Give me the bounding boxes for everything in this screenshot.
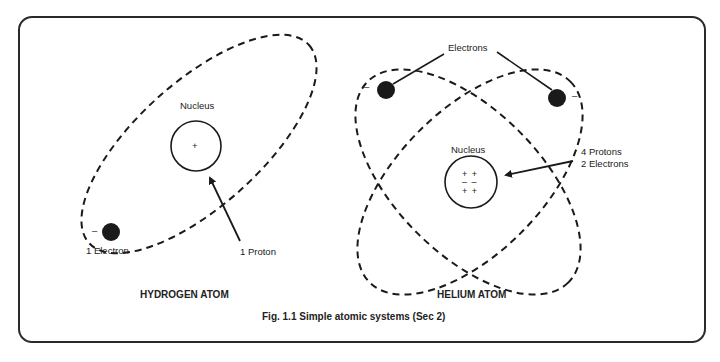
- helium-electron-charge-left: –: [364, 81, 369, 92]
- hydrogen-title: HYDROGEN ATOM: [140, 289, 229, 300]
- helium-title: HELIUM ATOM: [437, 289, 506, 300]
- atomic-systems-diagram: [0, 0, 720, 362]
- proton-arrow: [210, 178, 240, 241]
- helium-nucleus-charges-bottom: + +: [462, 186, 478, 197]
- figure-caption: Fig. 1.1 Simple atomic systems (Sec 2): [262, 311, 445, 322]
- helium-electron-right: [548, 89, 566, 107]
- helium-electrons-label: Electrons: [448, 42, 488, 53]
- helium-electron-left: [377, 81, 395, 99]
- hydrogen-electron-label: 1 Electron: [86, 245, 129, 256]
- electrons-leader-left: [393, 54, 444, 84]
- helium-nucleus-label: Nucleus: [451, 144, 485, 155]
- electrons-leader-right: [497, 52, 552, 90]
- hydrogen-electron-charge: –: [92, 225, 97, 236]
- hydrogen-electron: [102, 223, 120, 241]
- hydrogen-proton-label: 1 Proton: [240, 246, 276, 257]
- hydrogen-nucleus-charge: +: [192, 140, 198, 151]
- helium-electron-charge-right: –: [572, 90, 577, 101]
- helium-contents-electrons: 2 Electrons: [581, 158, 629, 169]
- nucleus-contents-arrow: [506, 161, 573, 175]
- helium-contents-protons: 4 Protons: [581, 146, 622, 157]
- hydrogen-nucleus-label: Nucleus: [180, 100, 214, 111]
